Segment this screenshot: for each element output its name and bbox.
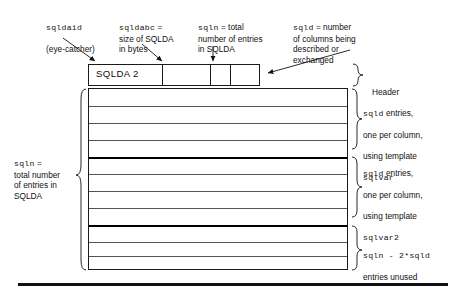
left-label-sqln-term: sqln [14,159,35,168]
brace-sqlvar-group [352,89,362,149]
group-boundary-divider [89,157,347,159]
header-cell-sqln [211,65,231,85]
left-label-sqln: sqln = total number of entries in SQLDA [14,148,80,201]
callout-sqln: sqln = total number of entries in SQLDA [198,12,263,55]
entry-row-divider [89,256,347,257]
callout-sqldabc-term: sqldabc [119,23,155,32]
entry-row-divider [89,174,347,175]
entry-row-divider [89,191,347,192]
callout-sqldaid: sqldaid (eye-catcher) [46,12,95,55]
right-label-unused-line2: entries unused [363,272,417,282]
right-label-sqlvar2-line2: one per column, [363,190,423,200]
right-label-sqlvar-term: sqld [363,109,384,118]
right-label-unused-expr: sqln - 2*sqld [363,251,430,260]
entry-row-divider [89,106,347,107]
entry-row-divider [89,208,347,209]
group-boundary-divider [89,225,347,227]
entry-row-divider [89,140,347,141]
callout-sqld-term: sqld [293,23,314,32]
sqlda-structure-diagram: sqldaid (eye-catcher) sqldabc = size of … [0,0,462,295]
right-label-unused-group: sqln - 2*sqld entries unused [363,240,430,283]
right-label-sqlvar2-term: sqld [363,169,384,178]
right-label-header-text: Header [372,87,399,97]
right-label-sqlvar-rest: entries, [384,108,414,118]
bottom-rule [18,283,448,286]
right-label-sqlvar2-group: sqld entries, one per column, using temp… [363,158,423,243]
right-label-header: Header [372,77,399,98]
callout-sqld: sqld = number of columns being described… [293,12,356,65]
right-label-sqlvar2-rest: entries, [384,168,414,178]
callout-sqldaid-term: sqldaid [46,23,82,32]
header-box-label: SQLDA 2 [96,68,139,79]
callout-sqldaid-text: (eye-catcher) [46,44,95,54]
brace-sqlvar2-group [352,157,362,217]
brace-header [353,64,363,86]
callout-sqldabc: sqldabc = size of SQLDA in bytes [119,12,173,55]
sqlda-entries-box [88,88,348,270]
callout-sqln-term: sqln [198,23,219,32]
header-cell-sqld [231,65,259,85]
brace-unused-group [352,226,362,270]
entry-row-divider [89,123,347,124]
right-label-sqlvar2-line3: using template [363,211,417,221]
header-cell-sqldabc [163,65,211,85]
right-label-sqlvar-line2: one per column, [363,130,423,140]
entry-row-divider [89,242,347,243]
